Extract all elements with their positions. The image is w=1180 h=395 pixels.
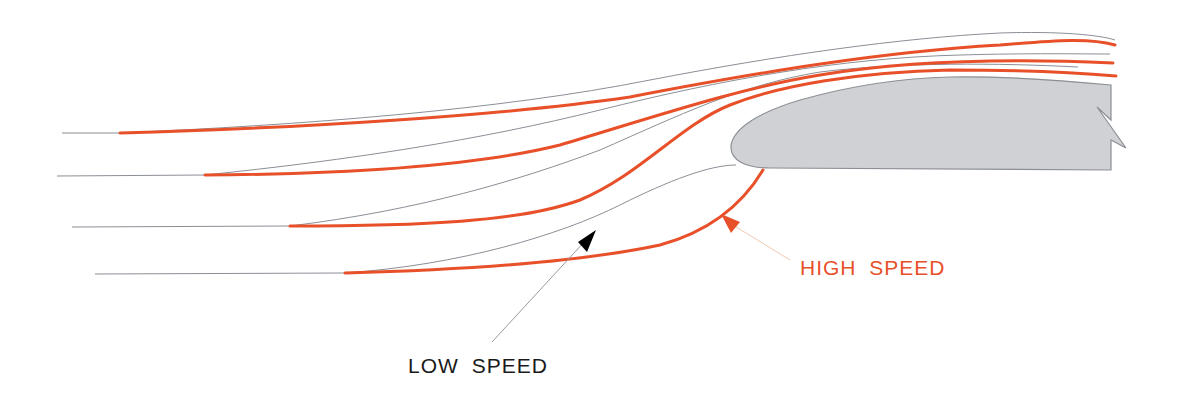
airfoil-shape xyxy=(731,77,1126,170)
slow-streamline-4 xyxy=(95,165,736,274)
high-speed-arrowhead-icon xyxy=(721,214,740,233)
fast-streamline-4 xyxy=(345,170,763,273)
low-speed-arrowhead-icon xyxy=(578,230,596,252)
low-speed-label: LOW SPEED xyxy=(408,354,548,378)
high-speed-label: HIGH SPEED xyxy=(800,256,946,280)
high-speed-pointer-line xyxy=(728,222,790,260)
airfoil-flow-diagram xyxy=(0,0,1180,395)
low-speed-pointer-line xyxy=(492,240,586,342)
